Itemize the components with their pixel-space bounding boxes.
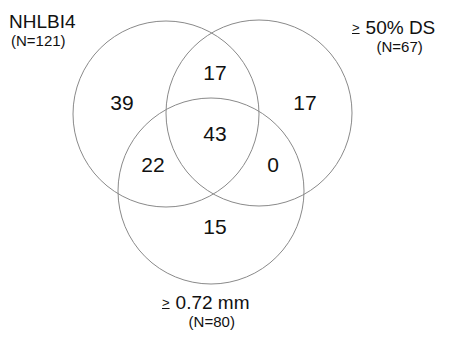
set-name-text: 50% DS: [366, 17, 436, 38]
set-name: NHLBI4: [9, 12, 76, 33]
set-count: (N=67): [364, 39, 435, 56]
set-count: (N=80): [174, 314, 250, 331]
set-label-nhlbi4: NHLBI4 (N=121): [9, 12, 76, 49]
region-bottom-only: 15: [203, 215, 226, 239]
set-count: (N=121): [11, 33, 76, 50]
region-right-bottom: 0: [267, 153, 279, 177]
region-left-right: 17: [203, 61, 226, 85]
set-label-50pct-ds: >50% DS (N=67): [352, 18, 435, 55]
set-name: >0.72 mm: [162, 293, 250, 314]
greater-equal-symbol: >: [352, 20, 360, 35]
set-name: >50% DS: [352, 18, 435, 39]
set-label-072mm: >0.72 mm (N=80): [162, 293, 250, 330]
region-right-only: 17: [293, 91, 316, 115]
set-name-text: 0.72 mm: [176, 292, 250, 313]
region-left-bottom: 22: [141, 153, 164, 177]
region-all-three: 43: [203, 122, 226, 146]
greater-equal-symbol: >: [162, 295, 170, 310]
region-left-only: 39: [110, 91, 133, 115]
